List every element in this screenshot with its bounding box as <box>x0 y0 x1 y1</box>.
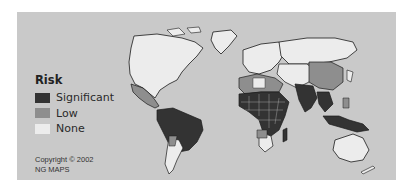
publisher-text: NG MAPS <box>35 165 93 175</box>
legend-label: Low <box>56 107 78 120</box>
map-credits: Copyright © 2002 NG MAPS <box>35 155 93 174</box>
legend-item-significant: Significant <box>35 90 114 106</box>
legend-title: Risk <box>35 73 114 87</box>
legend-item-low: Low <box>35 106 114 122</box>
madagascar <box>283 128 287 142</box>
legend-item-none: None <box>35 121 114 137</box>
swatch-significant <box>35 93 50 103</box>
map-panel: Risk Significant Low None Copyright © 20… <box>17 12 396 180</box>
china <box>309 62 343 90</box>
indonesia <box>323 116 369 132</box>
japan <box>347 70 353 82</box>
swatch-none <box>35 124 50 134</box>
central-africa <box>239 92 289 136</box>
map-legend: Risk Significant Low None <box>35 73 114 137</box>
south-asia <box>295 84 317 112</box>
greenland <box>211 30 237 54</box>
southeast-asia <box>317 92 333 112</box>
russia <box>279 38 357 64</box>
copyright-text: Copyright © 2002 <box>35 155 93 165</box>
new-zealand <box>361 166 375 174</box>
australia <box>333 134 369 162</box>
legend-label: Significant <box>56 91 114 104</box>
swatch-low <box>35 108 50 118</box>
legend-label: None <box>56 122 85 135</box>
